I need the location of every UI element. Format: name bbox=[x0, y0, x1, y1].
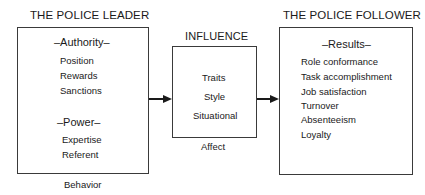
results-header: –Results– bbox=[322, 38, 371, 50]
arrow-head-icon bbox=[270, 95, 279, 103]
influence-title: INFLUENCE bbox=[185, 30, 248, 42]
results-item: Turnover bbox=[301, 100, 339, 111]
influence-item: Situational bbox=[193, 110, 237, 121]
power-header: –Power– bbox=[57, 116, 100, 128]
leader-caption: Behavior bbox=[64, 179, 102, 190]
results-item: Task accomplishment bbox=[301, 71, 392, 82]
power-item: Referent bbox=[62, 149, 98, 160]
influence-item: Style bbox=[204, 91, 225, 102]
power-item: Expertise bbox=[62, 134, 102, 145]
follower-title: THE POLICE FOLLOWER bbox=[283, 9, 421, 21]
arrow-influence-to-follower bbox=[257, 98, 271, 100]
authority-item: Sanctions bbox=[60, 85, 102, 96]
influence-caption: Affect bbox=[201, 141, 225, 152]
influence-item: Traits bbox=[202, 72, 225, 83]
authority-item: Rewards bbox=[60, 70, 98, 81]
arrow-head-icon bbox=[163, 95, 172, 103]
results-item: Role conformance bbox=[301, 56, 378, 67]
results-item: Job satisfaction bbox=[301, 86, 366, 97]
results-item: Loyalty bbox=[301, 129, 331, 140]
results-item: Absenteeism bbox=[301, 114, 356, 125]
authority-item: Position bbox=[60, 55, 94, 66]
leader-title: THE POLICE LEADER bbox=[30, 9, 149, 21]
authority-header: –Authority– bbox=[54, 36, 110, 48]
